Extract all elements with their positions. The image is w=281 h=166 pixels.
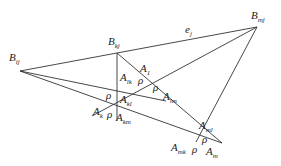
label-rho-1: ρ [138,75,143,86]
label-a-km: Akm [116,112,131,126]
label-a-mk: Amk [171,142,186,156]
label-rho-3: ρ [106,90,111,101]
label-a-lk: Alk [120,72,132,86]
label-b-kj: Bkj [108,36,120,50]
label-a-m: Am [206,146,218,160]
label-rho-2: ρ [153,82,158,93]
label-a-kl: Akl [120,94,132,108]
label-a-ml: Aml [199,120,213,134]
label-rho-6: ρ [192,144,197,155]
label-a-lm: Alm [163,91,177,105]
label-b-ij: Bij [9,52,20,66]
label-e-j: ej [185,24,192,38]
label-rho-5: ρ [202,134,207,145]
line-Bij-Bmj [20,27,257,71]
label-b-mj: Bmj [251,10,265,24]
label-a-k: Ak [93,106,103,120]
label-rho-4: ρ [107,109,112,120]
